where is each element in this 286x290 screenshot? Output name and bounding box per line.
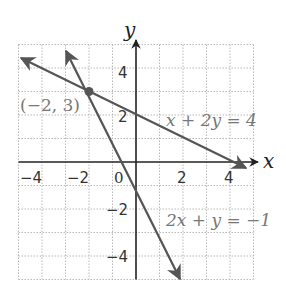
intersection-point-label: (−2, 3) [20,95,80,115]
equation-label-line-2: 2x + y = −1 [165,210,271,230]
x-tick-label: −4 [20,169,42,187]
y-tick-labels: 4 2 −2 −4 [106,64,128,266]
y-tick-label: −4 [106,248,128,266]
x-axis-label: x [263,149,274,173]
x-tick-label: 0 [114,169,124,187]
x-tick-label: −2 [67,169,89,187]
x-tick-label: 2 [177,169,187,187]
coordinate-graph: x y −4 −2 0 2 4 4 2 −2 −4 (−2, 3) x + 2y… [0,0,286,290]
equation-label-line-1: x + 2y = 4 [166,110,257,130]
x-tick-label: 4 [224,169,234,187]
y-tick-label: −2 [106,201,128,219]
y-axis-label: y [123,18,136,42]
intersection-point [85,87,94,96]
y-tick-label: 2 [118,108,128,126]
y-tick-label: 4 [118,64,128,82]
line-2x-plus-y-eq-neg1 [66,51,180,279]
